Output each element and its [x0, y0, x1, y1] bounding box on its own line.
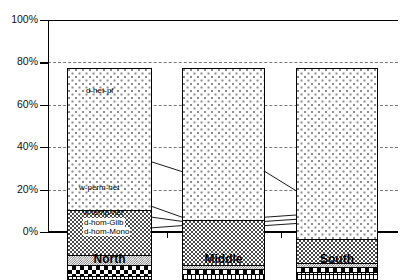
y-tick-label-20: 20%: [17, 183, 38, 195]
x-tick-middle-south: [281, 231, 282, 238]
series-label-d-het-pf: d-het-pf: [86, 86, 114, 95]
series-label-w-perm-het: w-perm-het: [79, 183, 119, 192]
bar-middle[interactable]: [182, 68, 265, 280]
y-tick-80: 80%: [0, 62, 48, 63]
x-axis-label-south: South: [296, 252, 378, 266]
segment-north-d-hom-mono[interactable]: [68, 276, 151, 280]
x-axis-label-middle: Middle: [182, 252, 265, 266]
y-axis: 100% 80% 60% 40% 20% 0%: [0, 0, 48, 232]
y-tick-label-80: 80%: [17, 55, 38, 67]
segment-south-d-hom-mono[interactable]: [297, 272, 377, 280]
y-tick-20: 20%: [0, 190, 48, 191]
y-tick-label-100: 100%: [11, 13, 38, 25]
y-tick-label-40: 40%: [17, 140, 38, 152]
y-tick-label-0: 0%: [23, 225, 38, 237]
series-label-d-hom-gilb: d-hom-Gilb: [83, 218, 125, 227]
segment-south-d-het-pf[interactable]: [297, 68, 377, 239]
series-label-d-hom-mono: d-hom-Mono: [83, 227, 130, 236]
y-tick-100: 100%: [0, 20, 48, 21]
bar-north[interactable]: [67, 68, 152, 280]
segment-middle-d-hom-mono[interactable]: [183, 274, 264, 280]
series-label-w-temp-het: w-temp-het: [83, 208, 123, 217]
x-tick-north-middle: [167, 231, 168, 238]
stacked-bar-chart: 100% 80% 60% 40% 20% 0%: [0, 0, 408, 280]
y-tick-60: 60%: [0, 105, 48, 106]
y-tick-label-60: 60%: [17, 98, 38, 110]
y-tick-40: 40%: [0, 147, 48, 148]
y-tick-0: 0%: [0, 232, 48, 233]
segment-middle-d-het-pf[interactable]: [183, 68, 264, 220]
bar-south[interactable]: [296, 68, 378, 280]
segment-north-d-hom-gilb[interactable]: [68, 265, 151, 276]
x-axis-label-north: North: [67, 252, 152, 266]
